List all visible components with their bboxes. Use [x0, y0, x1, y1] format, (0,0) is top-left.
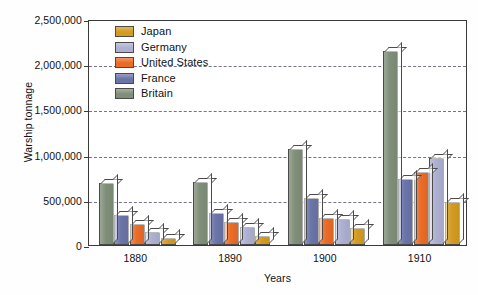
- legend-label: Germany: [141, 42, 187, 53]
- bar-britain-1890: [193, 182, 208, 245]
- legend-swatch-icon: [115, 57, 134, 68]
- legend-swatch-icon: [115, 73, 134, 84]
- x-tick-label: 1900: [313, 252, 337, 264]
- legend-item-japan: Japan: [115, 25, 208, 38]
- y-tick-label: 2,500,000: [8, 14, 82, 26]
- legend-item-united-states: United States: [115, 56, 208, 69]
- x-tick-label: 1880: [123, 252, 147, 264]
- y-tick-mark: [84, 202, 89, 203]
- legend-label: France: [141, 73, 176, 84]
- legend-item-britain: Britain: [115, 87, 208, 100]
- y-tick-mark: [84, 157, 89, 158]
- legend-swatch-icon: [115, 42, 134, 53]
- bar-britain-1910: [383, 51, 398, 245]
- y-tick-label: 0: [8, 240, 82, 252]
- legend-label: Japan: [141, 26, 171, 37]
- x-tick-label: 1890: [218, 252, 242, 264]
- x-axis-title: Years: [88, 272, 467, 284]
- legend-swatch-icon: [115, 88, 134, 99]
- y-tick-mark: [84, 21, 89, 22]
- legend-swatch-icon: [115, 26, 134, 37]
- y-axis-tick-labels: 0500,0001,000,0001,500,0002,000,0002,500…: [8, 0, 82, 295]
- y-tick-label: 500,000: [8, 195, 82, 207]
- y-tick-label: 1,500,000: [8, 104, 82, 116]
- bar-group-1900: [279, 21, 374, 245]
- x-tick-label: 1910: [408, 252, 432, 264]
- y-tick-mark: [84, 66, 89, 67]
- y-tick-mark: [84, 247, 89, 248]
- bar-britain-1900: [288, 149, 303, 245]
- bar-britain-1880: [99, 183, 114, 245]
- warship-tonnage-bar-chart: Warship tonnage 0500,0001,000,0001,500,0…: [0, 0, 478, 295]
- legend-item-germany: Germany: [115, 41, 208, 54]
- bar-group-1910: [373, 21, 468, 245]
- legend-label: United States: [141, 57, 208, 68]
- y-tick-label: 1,000,000: [8, 150, 82, 162]
- y-tick-label: 2,000,000: [8, 59, 82, 71]
- legend: JapanGermanyUnited StatesFranceBritain: [115, 25, 208, 100]
- legend-label: Britain: [141, 88, 173, 99]
- legend-item-france: France: [115, 72, 208, 85]
- y-tick-mark: [84, 111, 89, 112]
